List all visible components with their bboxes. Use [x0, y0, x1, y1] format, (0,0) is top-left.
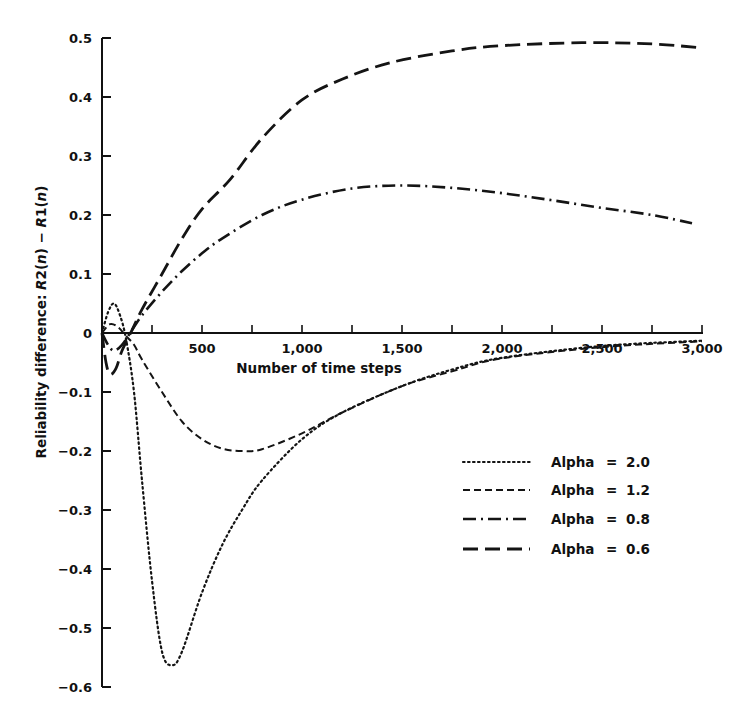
legend-equals: = — [606, 482, 617, 498]
legend-label: Alpha — [551, 511, 594, 527]
legend-value: 2.0 — [626, 454, 650, 470]
y-tick-label: −0.4 — [58, 562, 92, 577]
y-tick-label: −0.6 — [58, 680, 92, 695]
y-tick-label: 0 — [83, 326, 92, 341]
y-tick-label: −0.2 — [58, 444, 92, 459]
legend-label: Alpha — [551, 454, 594, 470]
series-line-dash-dot — [102, 185, 692, 350]
x-tick-label: 1,500 — [381, 341, 422, 356]
legend: Alpha=2.0Alpha=1.2Alpha=0.8Alpha=0.6 — [463, 454, 650, 557]
legend-value: 0.8 — [626, 511, 650, 527]
x-tick-label: 3,000 — [681, 341, 722, 356]
y-tick-label: −0.1 — [58, 385, 92, 400]
legend-value: 0.6 — [626, 541, 650, 557]
x-tick-label: 1,000 — [281, 341, 322, 356]
x-tick-label: 2,000 — [481, 341, 522, 356]
legend-value: 1.2 — [626, 482, 650, 498]
y-tick-label: 0.3 — [69, 149, 92, 164]
y-tick-label: −0.5 — [58, 621, 92, 636]
legend-label: Alpha — [551, 482, 594, 498]
y-axis-title: Reliability difference: R2(n) − R1(n) — [33, 186, 49, 459]
y-tick-label: −0.3 — [58, 503, 92, 518]
y-tick-label: 0.4 — [69, 90, 92, 105]
x-axis-title: Number of time steps — [236, 360, 401, 376]
x-tick-label: 500 — [188, 341, 215, 356]
y-tick-label: 0.2 — [69, 208, 92, 223]
reliability-chart: 0.50.40.30.20.10−0.1−0.2−0.3−0.4−0.5−0.6… — [0, 0, 751, 721]
legend-equals: = — [606, 454, 617, 470]
legend-label: Alpha — [551, 541, 594, 557]
y-tick-label: 0.5 — [69, 31, 92, 46]
y-tick-label: 0.1 — [69, 267, 92, 282]
legend-equals: = — [606, 541, 617, 557]
legend-equals: = — [606, 511, 617, 527]
x-tick-label: 2,500 — [581, 341, 622, 356]
